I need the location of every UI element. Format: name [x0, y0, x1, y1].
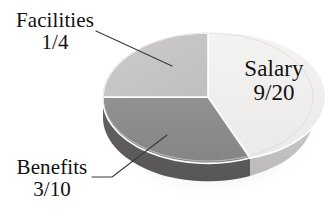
slice-label-facilities-value: 1/4	[2, 31, 108, 53]
slice-label-salary: Salary 9/20	[224, 57, 324, 106]
slice-label-benefits: Benefits 3/10	[0, 156, 104, 201]
pie-chart-figure: Facilities 1/4 Benefits 3/10 Salary 9/20	[0, 0, 334, 220]
slice-label-facilities-name: Facilities	[2, 9, 108, 31]
slice-label-facilities: Facilities 1/4	[2, 9, 108, 54]
slice-label-salary-name: Salary	[224, 57, 324, 81]
slice-label-benefits-name: Benefits	[0, 156, 104, 178]
slice-label-benefits-value: 3/10	[0, 178, 104, 200]
pie-slice-facilities	[103, 33, 208, 97]
slice-label-salary-value: 9/20	[224, 81, 324, 105]
